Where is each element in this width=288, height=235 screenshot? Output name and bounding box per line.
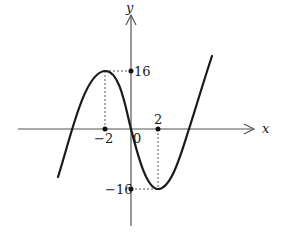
y-axis-label: y [125,0,134,15]
tick-label-x-2: 2 [154,112,162,127]
tick-label-y-16: 16 [134,64,151,79]
tick-label-x-neg2: −2 [94,131,113,146]
tick-dot-y-16 [129,69,134,74]
origin-label: 0 [133,131,141,146]
x-axis-label: x [262,121,270,136]
tick-dot-x-2 [156,127,161,132]
tick-label-y-neg16: −16 [105,182,132,197]
function-graph: y x 0 −2 2 16 −16 [0,0,288,235]
